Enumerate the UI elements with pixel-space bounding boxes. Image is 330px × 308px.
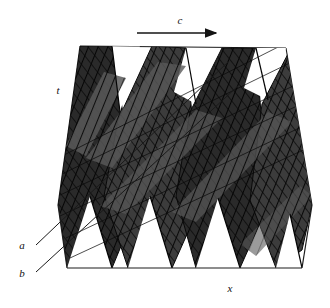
callout-label-a: a bbox=[19, 239, 25, 251]
axis-label-c: c bbox=[178, 14, 183, 26]
axis-label-x: x bbox=[227, 282, 233, 294]
surface-plot-svg: c bbox=[0, 0, 330, 308]
callout-label-b: b bbox=[19, 267, 25, 279]
figure-container: c bbox=[0, 0, 330, 308]
wave-surface-group bbox=[58, 40, 312, 268]
